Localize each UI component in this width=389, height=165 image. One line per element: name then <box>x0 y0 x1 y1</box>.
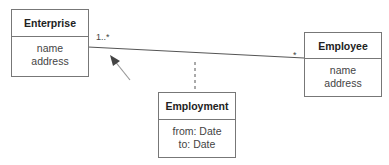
attribute: name <box>305 64 381 77</box>
attribute: to: Date <box>159 138 235 151</box>
pointer-arrow-head-icon <box>110 55 120 66</box>
attribute: address <box>12 55 88 68</box>
class-employment-attributes: from: Date to: Date <box>159 120 235 151</box>
multiplicity-employee: * <box>293 50 297 60</box>
class-employment-name: Employment <box>159 93 235 120</box>
attribute: from: Date <box>159 125 235 138</box>
class-enterprise: Enterprise name address <box>11 9 89 77</box>
attribute: name <box>12 42 88 55</box>
class-enterprise-attributes: name address <box>12 37 88 68</box>
attribute: address <box>305 77 381 90</box>
association-line <box>88 47 304 58</box>
class-enterprise-name: Enterprise <box>12 10 88 37</box>
class-employee-name: Employee <box>305 33 381 59</box>
class-employment: Employment from: Date to: Date <box>158 92 236 158</box>
class-employee-attributes: name address <box>305 59 381 90</box>
class-employee: Employee name address <box>304 32 382 97</box>
multiplicity-enterprise: 1..* <box>96 32 110 42</box>
